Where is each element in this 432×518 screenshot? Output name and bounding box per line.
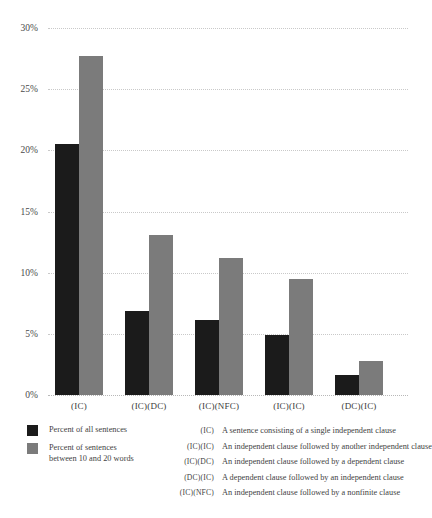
bar-group xyxy=(265,28,313,395)
bar xyxy=(55,144,79,395)
legend-swatch-light xyxy=(27,443,38,454)
bar-group xyxy=(125,28,173,395)
definition-row: (IC)(IC)An independent clause followed b… xyxy=(158,442,416,451)
bar xyxy=(265,335,289,395)
plot-area: (IC)(IC)(DC)(IC)(NFC)(IC)(IC)(DC)(IC) xyxy=(48,28,408,395)
gridline-0pct xyxy=(48,395,408,396)
y-axis-tick-label: 0% xyxy=(0,390,38,400)
y-axis-tick-label: 25% xyxy=(0,84,38,94)
legend-swatch-dark xyxy=(27,425,38,436)
legend-label: Percent of sentences xyxy=(49,442,167,453)
bar-group xyxy=(55,28,103,395)
definition-text: A dependent clause followed by an indepe… xyxy=(222,473,404,482)
definition-code: (IC)(IC) xyxy=(158,442,214,451)
bar xyxy=(335,375,359,395)
bar xyxy=(219,258,243,395)
bar-group xyxy=(335,28,383,395)
y-axis-tick-label: 20% xyxy=(0,145,38,155)
bar xyxy=(79,56,103,395)
definition-text: An independent clause followed by anothe… xyxy=(222,442,432,451)
bar xyxy=(195,320,219,395)
legend-label-continued: between 10 and 20 words xyxy=(49,453,167,464)
definition-code: (IC)(DC) xyxy=(158,457,214,466)
definition-text: An independent clause followed by a nonf… xyxy=(222,488,400,497)
definition-row: (IC)(NFC)An independent clause followed … xyxy=(158,488,416,497)
definition-code: (DC)(IC) xyxy=(158,473,214,482)
bar-group xyxy=(195,28,243,395)
definition-code: (IC)(NFC) xyxy=(158,488,214,497)
definition-row: (DC)(IC)A dependent clause followed by a… xyxy=(158,473,416,482)
legend-item: Percent of sentencesbetween 10 and 20 wo… xyxy=(27,442,167,464)
x-axis-tick-label: (DC)(IC) xyxy=(309,401,409,411)
bar xyxy=(359,361,383,395)
legend-item: Percent of all sentences xyxy=(27,424,167,436)
definition-row: (IC)(DC)An independent clause followed b… xyxy=(158,457,416,466)
chart-legend: Percent of all sentencesPercent of sente… xyxy=(27,424,167,470)
y-axis-tick-label: 30% xyxy=(0,23,38,33)
bar xyxy=(149,235,173,395)
definition-code: (IC) xyxy=(158,426,214,435)
y-axis-tick-label: 10% xyxy=(0,268,38,278)
bar xyxy=(289,279,313,395)
y-axis-tick-label: 5% xyxy=(0,329,38,339)
definition-text: An independent clause followed by a depe… xyxy=(222,457,404,466)
definition-text: A sentence consisting of a single indepe… xyxy=(222,426,396,435)
definitions-list: (IC)A sentence consisting of a single in… xyxy=(158,426,416,504)
bar xyxy=(125,311,149,395)
legend-label: Percent of all sentences xyxy=(49,424,167,435)
y-axis-tick-label: 15% xyxy=(0,207,38,217)
definition-row: (IC)A sentence consisting of a single in… xyxy=(158,426,416,435)
